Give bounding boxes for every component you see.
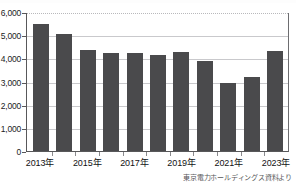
bar — [267, 51, 283, 151]
bar — [197, 61, 213, 151]
bar — [150, 55, 166, 151]
plot-area — [26, 13, 289, 152]
x-axis-tick-label: 2017年 — [120, 156, 149, 169]
bar — [220, 83, 236, 151]
bar — [173, 52, 189, 151]
bar — [127, 53, 143, 151]
bar — [56, 34, 72, 151]
y-axis-tick-label: 3,000 — [1, 78, 21, 88]
y-axis-labels: 01,0002,0003,0004,0005,0006,000 — [0, 0, 24, 183]
bar — [33, 24, 49, 151]
bar-series — [27, 13, 288, 151]
bar — [80, 50, 96, 151]
y-axis-tick-label: 6,000 — [1, 8, 21, 18]
x-axis-labels: 2013年2015年2017年2019年2021年2023年 — [26, 156, 289, 170]
y-axis-tick-label: 0 — [16, 147, 21, 157]
x-axis-tick-label: 2013年 — [26, 156, 55, 169]
bar-chart: 01,0002,0003,0004,0005,0006,000 2013年201… — [0, 0, 296, 183]
y-axis-tick-label: 4,000 — [1, 54, 21, 64]
x-axis-tick-label: 2015年 — [73, 156, 102, 169]
source-note: 東京電力ホールディングス資料より — [183, 172, 292, 182]
y-axis-tick-label: 2,000 — [1, 101, 21, 111]
x-axis-tick-label: 2021年 — [215, 156, 244, 169]
bar — [244, 77, 260, 151]
bar — [103, 53, 119, 151]
y-axis-tick-label: 1,000 — [1, 124, 21, 134]
x-axis-tick-label: 2023年 — [262, 156, 291, 169]
y-axis-tick-label: 5,000 — [1, 31, 21, 41]
chart-top-margin — [0, 0, 296, 3]
x-axis-tick-label: 2019年 — [167, 156, 196, 169]
